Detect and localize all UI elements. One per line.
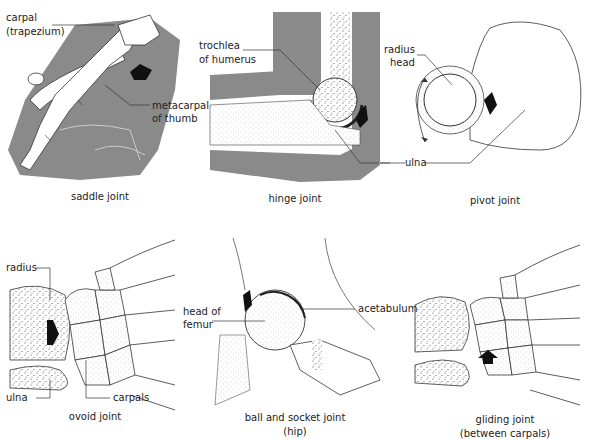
label-ulna-hinge: ulna — [405, 157, 427, 169]
label-radius-head-1: radius — [384, 44, 415, 56]
label-ulna-ovoid: ulna — [6, 392, 28, 404]
label-femur: femur — [183, 319, 213, 331]
label-of-thumb: of thumb — [152, 113, 198, 125]
label-head-of: head of — [183, 306, 221, 318]
caption-between-carpals: (between carpals) — [445, 427, 565, 439]
ball-socket-joint-figure — [212, 238, 380, 405]
label-radius-ovoid: radius — [6, 262, 37, 274]
caption-gliding-joint: gliding joint — [445, 413, 565, 426]
caption-ovoid-joint: ovoid joint — [45, 410, 145, 423]
caption-hip: (hip) — [230, 425, 360, 438]
saddle-joint-figure — [8, 15, 180, 180]
caption-ball-socket-joint: ball and socket joint — [230, 411, 360, 424]
label-carpal: carpal — [6, 12, 37, 24]
caption-hinge-joint: hinge joint — [245, 192, 345, 205]
hinge-joint-figure — [210, 12, 390, 182]
label-radius-head-2: head — [390, 57, 415, 69]
gliding-joint-figure — [415, 245, 580, 405]
joint-types-illustration — [0, 0, 591, 439]
label-trochlea: trochlea — [199, 40, 240, 52]
label-acetabulum: acetabulum — [358, 303, 417, 315]
label-metacarpal: metacarpal — [152, 100, 209, 112]
label-carpals: carpals — [113, 392, 149, 404]
caption-pivot-joint: pivot joint — [445, 194, 545, 207]
label-of-humerus: of humerus — [199, 54, 256, 66]
caption-saddle-joint: saddle joint — [50, 190, 150, 203]
label-trapezium: (trapezium) — [6, 26, 65, 38]
